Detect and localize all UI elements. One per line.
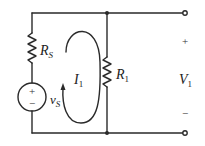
resistor-rs-icon (28, 33, 36, 63)
circuit-svg: + − RS vS I1 R1 + V1 − (0, 0, 205, 146)
output-plus-sign: + (182, 35, 188, 47)
bottom-terminal-icon (183, 131, 187, 135)
circuit-diagram: + − RS vS I1 R1 + V1 − (0, 0, 205, 146)
label-rs: RS (39, 43, 54, 60)
label-vs: vS (50, 92, 61, 109)
source-minus-sign: − (29, 97, 35, 109)
label-r1: R1 (115, 67, 129, 84)
label-v1: V1 (179, 72, 192, 89)
output-minus-sign: − (182, 107, 188, 119)
loop-current-arrowhead-icon (61, 83, 66, 90)
top-terminal-icon (183, 11, 187, 15)
bottom-junction-dot-icon (105, 131, 109, 135)
resistor-r1-icon (103, 57, 111, 87)
source-plus-sign: + (29, 85, 35, 97)
label-i1: I1 (73, 72, 83, 89)
loop-current-arc-icon (63, 31, 100, 123)
top-junction-dot-icon (105, 11, 109, 15)
